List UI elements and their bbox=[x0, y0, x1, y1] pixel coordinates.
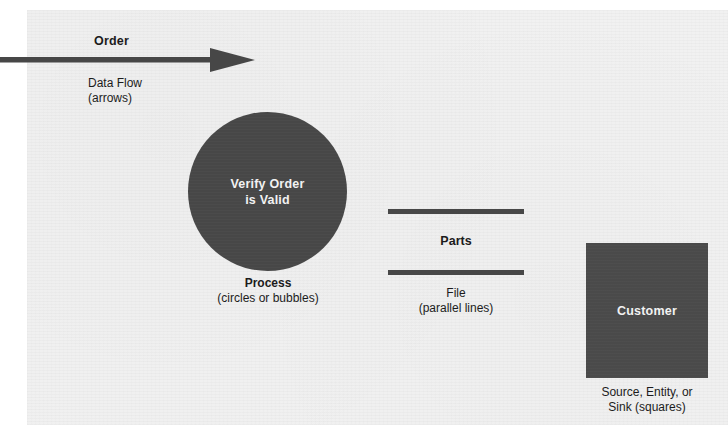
process-shape-label: Verify Order is Valid bbox=[231, 176, 305, 208]
process-shape-label-line2: is Valid bbox=[231, 192, 305, 208]
entity-caption-line1: Source, Entity, or bbox=[572, 385, 722, 400]
process-caption-line2: (circles or bubbles) bbox=[193, 291, 343, 306]
data-flow-arrow-icon bbox=[0, 46, 258, 74]
entity-caption-line2: Sink (squares) bbox=[572, 400, 722, 415]
data-flow-caption-line1: Data Flow bbox=[88, 76, 142, 91]
data-flow-caption: Data Flow (arrows) bbox=[88, 76, 142, 106]
file-top-line-icon bbox=[388, 209, 524, 214]
entity-caption: Source, Entity, or Sink (squares) bbox=[572, 385, 722, 415]
process-shape-label-line1: Verify Order bbox=[231, 176, 305, 192]
file-caption-line1: File bbox=[381, 286, 531, 301]
process-circle-shape: Verify Order is Valid bbox=[188, 112, 347, 271]
diagram-canvas: Order Data Flow (arrows) Verify Order is… bbox=[0, 0, 728, 436]
data-flow-caption-line2: (arrows) bbox=[88, 91, 142, 106]
process-caption: Process (circles or bubbles) bbox=[193, 276, 343, 306]
file-store-label: Parts bbox=[388, 234, 524, 248]
process-caption-line1: Process bbox=[193, 276, 343, 291]
file-bottom-line-icon bbox=[388, 270, 524, 275]
entity-shape-label: Customer bbox=[617, 304, 677, 318]
entity-square-shape: Customer bbox=[586, 243, 708, 378]
file-caption: File (parallel lines) bbox=[381, 286, 531, 316]
data-flow-label: Order bbox=[94, 34, 129, 48]
file-caption-line2: (parallel lines) bbox=[381, 301, 531, 316]
